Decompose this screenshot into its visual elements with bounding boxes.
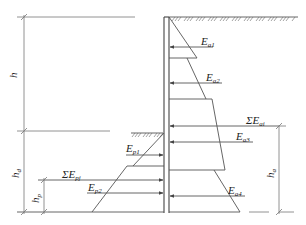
label-sumEai: ΣEai	[245, 114, 265, 128]
label-Ea2: Ea2	[205, 71, 220, 85]
label-h: h	[7, 72, 19, 78]
label-Ea4: Ea4	[227, 184, 242, 198]
label-Ep2: Ep2	[87, 181, 102, 195]
label-Ea1: Ea1	[200, 35, 215, 49]
ground-surface-active	[169, 17, 298, 21]
dimension-h-hd	[21, 14, 27, 215]
ground-surface-passive	[131, 133, 163, 137]
label-Ep1: Ep1	[125, 142, 140, 156]
retaining-wall-earth-pressure-diagram: h hd hp ha Ea1 Ea2 ΣEai Ea3 Ea4 Ep1 ΣEpj…	[0, 0, 306, 225]
retaining-wall	[164, 17, 169, 213]
label-Ea3: Ea3	[235, 130, 250, 144]
label-hd: hd	[9, 169, 23, 179]
dimension-ha	[249, 123, 294, 215]
label-hp: hp	[29, 194, 43, 204]
label-ha: ha	[264, 169, 278, 179]
label-sumEpj: ΣEpj	[61, 168, 81, 182]
